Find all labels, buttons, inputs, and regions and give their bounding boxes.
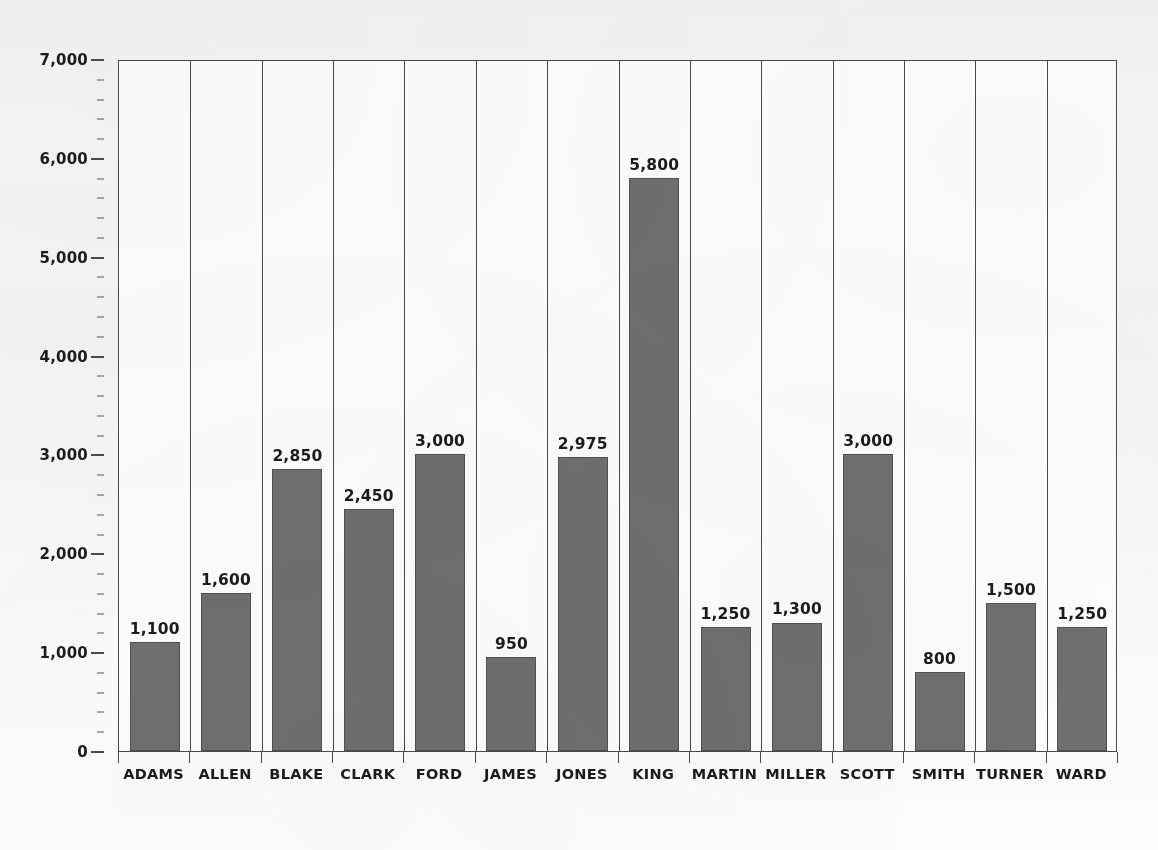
y-tick-minor	[97, 198, 104, 199]
y-tick-major	[91, 59, 104, 61]
x-tick	[1117, 752, 1118, 763]
y-tick-minor	[97, 593, 104, 594]
bar-value-label: 1,600	[181, 571, 271, 589]
x-tick	[403, 752, 404, 763]
x-axis-label-smith: SMITH	[912, 766, 966, 782]
y-tick-minor	[97, 297, 104, 298]
y-tick-minor	[97, 376, 104, 377]
category-separator	[1047, 61, 1048, 751]
bar-value-label: 950	[466, 635, 556, 653]
y-axis-label: 2,000	[40, 545, 88, 563]
x-tick	[689, 752, 690, 763]
y-tick-minor	[97, 732, 104, 733]
y-tick-minor	[97, 672, 104, 673]
x-axis-label-blake: BLAKE	[269, 766, 323, 782]
x-axis-label-king: KING	[632, 766, 674, 782]
bar-adams[interactable]	[130, 642, 180, 751]
y-tick-minor	[97, 336, 104, 337]
x-tick	[475, 752, 476, 763]
y-tick-minor	[97, 119, 104, 120]
y-tick-minor	[97, 574, 104, 575]
bar-value-label: 1,500	[966, 581, 1056, 599]
x-axis-label-adams: ADAMS	[123, 766, 184, 782]
x-tick	[546, 752, 547, 763]
y-tick-minor	[97, 79, 104, 80]
y-tick-minor	[97, 435, 104, 436]
y-tick-minor	[97, 475, 104, 476]
category-separator	[761, 61, 762, 751]
bar-value-label: 5,800	[609, 156, 699, 174]
bar-james[interactable]	[486, 657, 536, 751]
y-tick-minor	[97, 633, 104, 634]
x-tick	[618, 752, 619, 763]
bar-value-label: 1,100	[110, 620, 200, 638]
y-axis-label: 0	[77, 743, 88, 761]
x-tick	[1046, 752, 1047, 763]
bar-value-label: 3,000	[823, 432, 913, 450]
category-separator	[190, 61, 191, 751]
bar-king[interactable]	[629, 178, 679, 751]
plot-area: 1,1001,6002,8502,4503,0009502,9755,8001,…	[118, 60, 1117, 752]
x-tick	[118, 752, 119, 763]
y-tick-minor	[97, 237, 104, 238]
y-axis-label: 7,000	[40, 51, 88, 69]
x-axis-label-scott: SCOTT	[840, 766, 895, 782]
x-tick	[832, 752, 833, 763]
y-tick-major	[91, 652, 104, 654]
x-axis-label-ward: WARD	[1056, 766, 1107, 782]
x-axis-label-jones: JONES	[556, 766, 608, 782]
bar-value-label: 1,300	[752, 600, 842, 618]
y-tick-minor	[97, 317, 104, 318]
y-tick-minor	[97, 396, 104, 397]
x-tick	[332, 752, 333, 763]
y-axis-label: 6,000	[40, 150, 88, 168]
bar-jones[interactable]	[558, 457, 608, 751]
x-axis-label-ford: FORD	[416, 766, 463, 782]
y-tick-major	[91, 553, 104, 555]
scanned-page: 01,0002,0003,0004,0005,0006,0007,000 1,1…	[0, 0, 1158, 850]
plot-inner: 1,1001,6002,8502,4503,0009502,9755,8001,…	[119, 61, 1116, 751]
y-axis-label: 5,000	[40, 249, 88, 267]
x-tick	[261, 752, 262, 763]
x-axis-label-miller: MILLER	[765, 766, 826, 782]
y-tick-minor	[97, 139, 104, 140]
y-tick-major	[91, 751, 104, 753]
bar-martin[interactable]	[701, 627, 751, 751]
category-separator	[904, 61, 905, 751]
x-tick	[760, 752, 761, 763]
bar-turner[interactable]	[986, 603, 1036, 751]
bar-allen[interactable]	[201, 593, 251, 751]
bar-miller[interactable]	[772, 623, 822, 752]
bar-ward[interactable]	[1057, 627, 1107, 751]
y-tick-minor	[97, 218, 104, 219]
bar-value-label: 1,250	[1037, 605, 1127, 623]
x-axis-label-james: JAMES	[484, 766, 537, 782]
y-tick-major	[91, 454, 104, 456]
bar-smith[interactable]	[915, 672, 965, 751]
y-tick-minor	[97, 514, 104, 515]
category-separator	[404, 61, 405, 751]
bar-ford[interactable]	[415, 454, 465, 751]
y-tick-major	[91, 158, 104, 160]
category-separator	[833, 61, 834, 751]
bar-value-label: 2,975	[538, 435, 628, 453]
y-axis: 01,0002,0003,0004,0005,0006,0007,000	[0, 0, 118, 850]
y-tick-minor	[97, 613, 104, 614]
bar-clark[interactable]	[344, 509, 394, 751]
x-tick	[903, 752, 904, 763]
bar-value-label: 2,450	[324, 487, 414, 505]
bar-scott[interactable]	[843, 454, 893, 751]
x-axis-label-martin: MARTIN	[692, 766, 757, 782]
y-tick-minor	[97, 99, 104, 100]
x-tick	[189, 752, 190, 763]
y-axis-label: 3,000	[40, 446, 88, 464]
x-axis-label-turner: TURNER	[976, 766, 1044, 782]
y-tick-minor	[97, 178, 104, 179]
y-tick-minor	[97, 277, 104, 278]
x-tick	[974, 752, 975, 763]
bar-blake[interactable]	[272, 469, 322, 751]
x-axis-label-clark: CLARK	[340, 766, 395, 782]
bar-value-label: 800	[895, 650, 985, 668]
y-axis-label: 1,000	[40, 644, 88, 662]
category-separator	[262, 61, 263, 751]
